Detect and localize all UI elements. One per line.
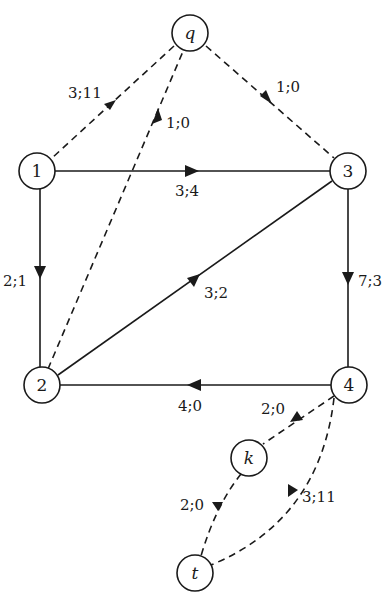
node-t: t	[177, 555, 213, 591]
label-4-k: 2;0	[261, 400, 285, 418]
node-t-label: t	[192, 563, 199, 583]
label-q-3: 1;0	[276, 78, 300, 96]
node-2-label: 2	[37, 375, 48, 395]
arrow-3-4-icon	[342, 272, 354, 285]
label-2-q: 1;0	[166, 114, 190, 132]
label-1-2: 2;1	[3, 272, 27, 290]
node-1-label: 1	[32, 161, 43, 181]
node-1: 1	[19, 153, 55, 189]
node-q-label: q	[185, 23, 196, 43]
label-1-3: 3;4	[175, 182, 199, 200]
arrow-4-t-icon	[288, 484, 298, 497]
node-2: 2	[24, 367, 60, 403]
arrow-4-k-icon	[290, 411, 303, 422]
label-k-t: 2;0	[180, 496, 204, 514]
label-q-1: 3;11	[68, 84, 102, 102]
node-4: 4	[331, 367, 367, 403]
arrow-q-3-icon	[260, 90, 272, 104]
label-4-t: 3;11	[302, 488, 336, 506]
arrow-1-3-icon	[185, 165, 199, 177]
node-3-label: 3	[343, 161, 354, 181]
arrow-2-q-icon	[152, 108, 162, 124]
edge-k-t	[201, 474, 241, 556]
node-k: k	[231, 440, 267, 476]
node-4-label: 4	[344, 375, 355, 395]
edge-4-t	[211, 398, 334, 565]
label-2-3: 3;2	[204, 284, 228, 302]
label-3-4: 7;3	[358, 272, 382, 290]
node-k-label: k	[244, 448, 254, 468]
arrow-k-t-icon	[212, 502, 223, 511]
node-3: 3	[330, 153, 366, 189]
arrow-1-2-icon	[34, 266, 46, 279]
network-diagram: 3;11 1;0 1;0 3;4 2;1 3;2 7;3 4;0 2;0 2;0…	[0, 0, 389, 594]
label-4-2: 4;0	[178, 397, 202, 415]
arrow-q-1-icon	[104, 100, 116, 110]
node-q: q	[172, 15, 208, 51]
arrow-2-3-icon	[187, 274, 200, 287]
arrow-4-2-icon	[187, 379, 201, 391]
